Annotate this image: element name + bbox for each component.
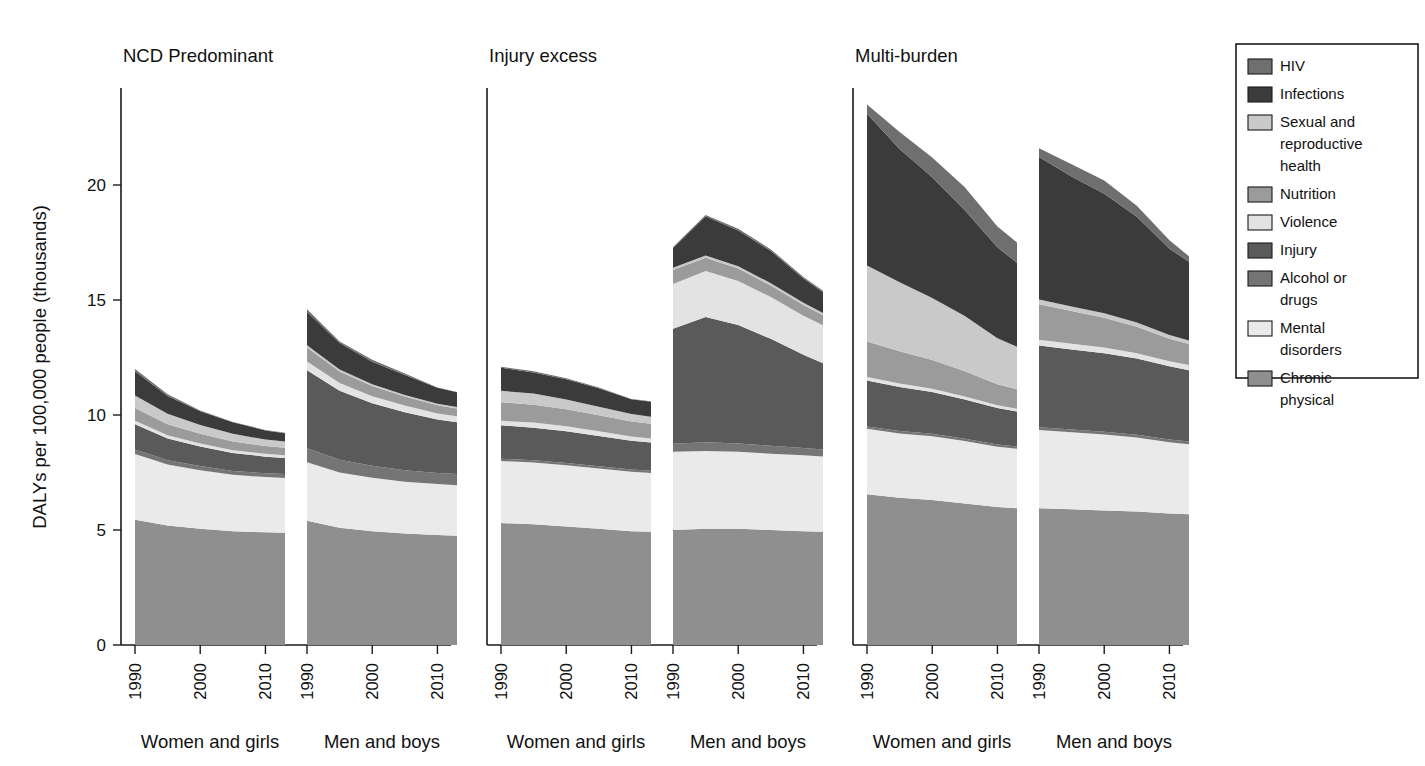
x-tick-label: 2000 (557, 663, 575, 700)
legend-swatch (1248, 321, 1272, 336)
area-band (1039, 508, 1189, 645)
legend-swatch (1248, 115, 1272, 130)
area-group (867, 105, 1017, 646)
panel-title: Injury excess (489, 45, 597, 66)
area-band (1039, 430, 1189, 514)
legend-label: Sexual and (1280, 113, 1355, 130)
group-label: Men and boys (690, 731, 806, 752)
legend-label: health (1280, 157, 1321, 174)
legend-label: Chronic (1280, 369, 1332, 386)
panel-title: Multi-burden (855, 45, 958, 66)
stacked-area-chart: DALYs per 100,000 people (thousands)0510… (0, 0, 1425, 766)
group-label: Men and boys (324, 731, 440, 752)
area-band (135, 520, 285, 645)
x-tick-label: 1990 (492, 663, 510, 700)
area-band (673, 529, 823, 645)
area-group (673, 215, 823, 645)
x-tick-label: 2010 (1160, 663, 1178, 700)
group-label: Women and girls (873, 731, 1011, 752)
x-tick-label: 2010 (988, 663, 1006, 700)
legend-swatch (1248, 87, 1272, 102)
legend-swatch (1248, 243, 1272, 258)
x-tick-label: 1990 (1030, 663, 1048, 700)
legend-label: physical (1280, 391, 1334, 408)
y-tick-label: 0 (97, 636, 106, 655)
area-group (307, 309, 457, 645)
legend-label: drugs (1280, 291, 1318, 308)
area-band (867, 494, 1017, 645)
x-tick-label: 2000 (191, 663, 209, 700)
legend-label: Injury (1280, 241, 1317, 258)
x-tick-label: 1990 (664, 663, 682, 700)
x-tick-label: 2000 (729, 663, 747, 700)
legend-swatch (1248, 187, 1272, 202)
y-tick-label: 20 (87, 176, 106, 195)
legend-swatch (1248, 371, 1272, 386)
legend: HIVInfectionsSexual andreproductivehealt… (1236, 44, 1418, 408)
x-tick-label: 1990 (858, 663, 876, 700)
x-tick-label: 2000 (923, 663, 941, 700)
legend-swatch (1248, 59, 1272, 74)
group-label: Women and girls (507, 731, 645, 752)
y-axis-label: DALYs per 100,000 people (thousands) (29, 205, 50, 529)
y-tick-label: 5 (97, 521, 106, 540)
legend-label: Infections (1280, 85, 1344, 102)
x-tick-label: 2000 (363, 663, 381, 700)
legend-swatch (1248, 271, 1272, 286)
area-band (673, 451, 823, 532)
legend-label: disorders (1280, 341, 1342, 358)
x-tick-label: 2000 (1095, 663, 1113, 700)
x-tick-label: 2010 (622, 663, 640, 700)
legend-label: Alcohol or (1280, 269, 1347, 286)
legend-label: Nutrition (1280, 185, 1336, 202)
y-tick-label: 15 (87, 291, 106, 310)
panel-title: NCD Predominant (123, 45, 273, 66)
group-label: Women and girls (141, 731, 279, 752)
area-group (1039, 148, 1189, 645)
group-label: Men and boys (1056, 731, 1172, 752)
area-group (135, 369, 285, 645)
legend-swatch (1248, 215, 1272, 230)
x-tick-label: 2010 (256, 663, 274, 700)
y-tick-label: 10 (87, 406, 106, 425)
y-axis: 05101520 (87, 88, 121, 655)
legend-label: Mental (1280, 319, 1325, 336)
area-band (501, 523, 651, 645)
legend-label: HIV (1280, 57, 1305, 74)
figure-root: DALYs per 100,000 people (thousands)0510… (0, 0, 1425, 766)
x-tick-label: 1990 (126, 663, 144, 700)
area-group (501, 367, 651, 645)
legend-label: reproductive (1280, 135, 1363, 152)
area-band (501, 461, 651, 532)
area-band (307, 521, 457, 645)
legend-label: Violence (1280, 213, 1337, 230)
x-tick-label: 1990 (298, 663, 316, 700)
x-tick-label: 2010 (794, 663, 812, 700)
x-tick-label: 2010 (428, 663, 446, 700)
